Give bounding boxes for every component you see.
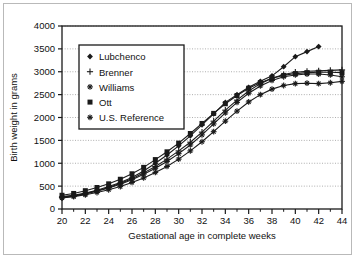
legend-item-label: Lubchenco	[99, 51, 145, 62]
legend: LubchencoBrennerWilliamsOttU.S. Referenc…	[79, 45, 184, 129]
y-axis-tick-label: 2500	[34, 89, 55, 100]
y-axis: 05001000150020002500300035004000	[34, 20, 62, 214]
x-axis-title: Gestational age in complete weeks	[128, 230, 276, 241]
x-axis-tick-label: 38	[267, 215, 278, 226]
data-point-marker	[130, 171, 135, 176]
data-point-marker	[270, 76, 275, 81]
data-point-marker	[293, 71, 298, 76]
y-axis-tick-label: 4000	[34, 20, 55, 31]
x-axis-tick-label: 26	[127, 215, 138, 226]
data-point-marker	[106, 181, 111, 186]
legend-item-label: Ott	[99, 97, 112, 108]
x-axis-tick-label: 22	[80, 215, 91, 226]
data-point-marker	[141, 165, 146, 170]
data-point-marker	[304, 49, 310, 55]
data-point-marker	[200, 121, 205, 126]
legend-item-label: Brenner	[99, 67, 133, 78]
y-axis-tick-label: 2000	[34, 112, 55, 123]
data-point-marker	[88, 100, 93, 105]
figure-container: 0500100015002000250030003500400020222426…	[0, 0, 356, 259]
x-axis-tick-label: 32	[197, 215, 208, 226]
data-point-marker	[305, 70, 310, 75]
data-point-marker	[118, 177, 123, 182]
y-axis-tick-label: 1500	[34, 135, 55, 146]
y-axis-tick-label: 1000	[34, 158, 55, 169]
x-axis-tick-label: 44	[337, 215, 348, 226]
data-point-marker	[340, 70, 345, 75]
data-point-marker	[211, 111, 216, 116]
birth-weight-line-chart: 0500100015002000250030003500400020222426…	[0, 0, 356, 259]
data-point-marker	[153, 157, 158, 162]
data-point-marker	[281, 73, 286, 78]
data-point-marker	[223, 101, 228, 106]
y-axis-tick-label: 3500	[34, 43, 55, 54]
x-axis-tick-label: 28	[150, 215, 161, 226]
data-point-marker	[316, 70, 321, 75]
data-point-marker	[95, 185, 100, 190]
data-point-marker	[328, 70, 333, 75]
x-axis-tick-label: 40	[290, 215, 301, 226]
legend-item[interactable]: U.S. Reference	[87, 112, 164, 123]
y-axis-title: Birth weight in grams	[8, 73, 19, 162]
x-axis-tick-label: 42	[313, 215, 324, 226]
y-axis-tick-label: 500	[39, 181, 55, 192]
legend-item-label: U.S. Reference	[99, 112, 164, 123]
y-axis-tick-label: 0	[50, 203, 55, 214]
data-point-marker	[188, 131, 193, 136]
data-point-marker	[316, 44, 322, 50]
data-point-marker	[176, 141, 181, 146]
x-axis-tick-label: 34	[220, 215, 231, 226]
data-point-marker	[235, 93, 240, 98]
data-point-marker	[246, 86, 251, 91]
data-point-marker	[258, 80, 263, 85]
x-axis-tick-label: 36	[243, 215, 254, 226]
y-axis-tick-label: 3000	[34, 66, 55, 77]
x-axis-tick-label: 20	[57, 215, 68, 226]
x-axis-tick-label: 30	[173, 215, 184, 226]
x-axis-tick-label: 24	[103, 215, 114, 226]
x-axis: 20222426283032343638404244	[57, 209, 348, 226]
data-point-marker	[165, 149, 170, 154]
legend-item-label: Williams	[99, 82, 135, 93]
